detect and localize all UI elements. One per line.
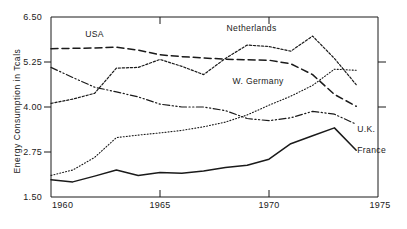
- y-tick-label: 5.25: [23, 57, 42, 67]
- series-label-usa: USA: [85, 29, 104, 39]
- series-label-france: France: [357, 145, 386, 155]
- series-label-u-k: U.K.: [357, 124, 375, 134]
- data-series-group: [51, 36, 356, 182]
- series-label-w-germany: W. Germany: [232, 76, 284, 86]
- series-line-usa: [51, 47, 356, 106]
- x-tick-label: 1960: [52, 200, 73, 210]
- series-label-netherlands: Netherlands: [226, 23, 276, 33]
- y-tick-label: 2.75: [23, 147, 42, 157]
- x-tick-label: 1975: [369, 200, 390, 210]
- chart-plot-area: 1960196519701975 6.505.254.002.751.50 US…: [0, 0, 407, 229]
- y-tick-label: 1.50: [23, 192, 42, 202]
- y-tick-label: 6.50: [23, 12, 42, 22]
- right-axis-ticks: [378, 62, 386, 107]
- y-axis-ticks: 6.505.254.002.751.50: [23, 12, 51, 202]
- x-axis-ticks: 1960196519701975: [52, 17, 391, 210]
- series-line-w-germany: [51, 69, 356, 175]
- x-tick-label: 1970: [258, 200, 279, 210]
- series-line-netherlands: [51, 36, 356, 103]
- series-line-u-k: [51, 67, 356, 124]
- energy-consumption-line-chart: Energy Consumption in Tcals 196019651970…: [0, 0, 407, 229]
- y-tick-label: 4.00: [23, 102, 42, 112]
- x-tick-label: 1965: [149, 200, 170, 210]
